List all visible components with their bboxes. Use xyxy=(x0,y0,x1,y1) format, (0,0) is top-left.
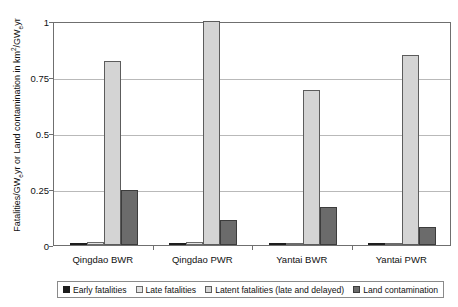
x-axis-category-label: Yantai PWR xyxy=(376,254,427,265)
legend-swatch-icon xyxy=(63,286,70,293)
bar-2-1 xyxy=(203,21,220,245)
legend-label: Early fatalities xyxy=(73,285,127,295)
bar-0-2 xyxy=(269,243,286,245)
y-axis-title-sub-1: e xyxy=(17,174,24,178)
y-axis-tick-mark xyxy=(49,190,53,191)
legend-swatch-icon xyxy=(205,286,212,293)
bar-0-3 xyxy=(368,243,385,245)
x-axis-category-label: Qingdao BWR xyxy=(72,254,133,265)
y-axis-tick-label: 0 xyxy=(20,241,49,252)
bar-0-1 xyxy=(169,243,186,245)
legend-label: Land contamination xyxy=(363,285,438,295)
x-axis-tick-mark xyxy=(153,246,154,250)
y-axis-tick-label: 0.5 xyxy=(20,129,49,140)
x-axis-tick-mark xyxy=(352,246,353,250)
bar-3-1 xyxy=(220,220,237,245)
bar-1-2 xyxy=(286,243,303,245)
y-axis-title-seg-3: /GW xyxy=(12,29,22,47)
y-axis-title-text: Fatalities/GWeyr or Land contamination i… xyxy=(12,18,22,231)
plot-area xyxy=(53,22,451,246)
bar-1-1 xyxy=(186,242,203,245)
bar-0-0 xyxy=(70,243,87,245)
legend-swatch-icon xyxy=(136,286,143,293)
legend-item[interactable]: Late fatalities xyxy=(136,285,197,295)
legend-label: Late fatalities xyxy=(146,285,197,295)
x-axis-tick-mark xyxy=(252,246,253,250)
y-axis-tick-label: 1 xyxy=(20,17,49,28)
y-axis-tick-label: 0.25 xyxy=(20,185,49,196)
bar-2-2 xyxy=(303,90,320,245)
bar-3-0 xyxy=(121,190,138,245)
bar-3-3 xyxy=(419,227,436,245)
y-axis-tick-mark xyxy=(49,246,53,247)
y-axis-tick-mark xyxy=(49,78,53,79)
x-axis-category-label: Yantai BWR xyxy=(276,254,327,265)
legend-label: Latent fatalities (late and delayed) xyxy=(215,285,344,295)
clipped-top-text xyxy=(24,0,324,5)
y-axis-tick-mark xyxy=(49,134,53,135)
legend-item[interactable]: Land contamination xyxy=(353,285,438,295)
y-axis-title-seg-2: yr or Land contamination in km xyxy=(12,51,22,174)
y-axis-title: Fatalities/GWeyr or Land contamination i… xyxy=(10,0,24,250)
y-axis-title-sup-1: 2 xyxy=(10,47,17,51)
chart-legend: Early fatalitiesLate fatalitiesLatent fa… xyxy=(57,281,444,298)
x-axis-category-label: Qingdao PWR xyxy=(172,254,233,265)
bar-1-0 xyxy=(87,242,104,245)
bar-3-2 xyxy=(320,207,337,245)
y-axis-tick-label: 0.75 xyxy=(20,73,49,84)
bar-chart: Fatalities/GWeyr or Land contamination i… xyxy=(0,0,458,307)
bar-2-0 xyxy=(104,61,121,245)
bar-2-3 xyxy=(402,55,419,245)
bar-1-3 xyxy=(385,243,402,245)
legend-item[interactable]: Latent fatalities (late and delayed) xyxy=(205,285,344,295)
legend-swatch-icon xyxy=(353,286,360,293)
y-axis-tick-mark xyxy=(49,22,53,23)
legend-item[interactable]: Early fatalities xyxy=(63,285,127,295)
